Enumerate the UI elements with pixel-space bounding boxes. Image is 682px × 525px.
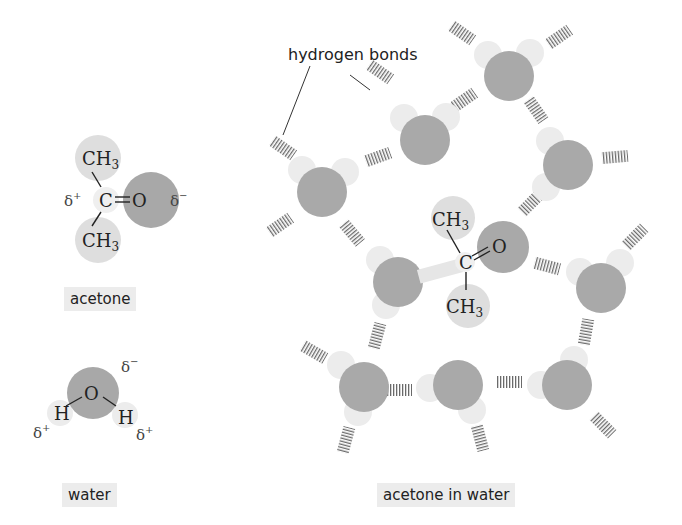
water-molecule: O H H δ− δ+ δ+ <box>33 356 153 444</box>
water-molecule-3 <box>474 39 544 101</box>
water-hydrogen-right-label: H <box>118 407 134 428</box>
acetone-molecule: CH3 CH3 C O δ+ δ− <box>64 135 187 263</box>
network-carbon-label: C <box>459 252 473 273</box>
water-oxygen-label: O <box>84 383 99 404</box>
carbon-label: C <box>99 190 113 211</box>
pointer-line-2 <box>350 75 370 90</box>
water-molecule-1 <box>288 156 359 217</box>
water-molecule-7 <box>327 351 389 426</box>
network-oxygen-label: O <box>492 236 507 257</box>
water-delta-minus: δ− <box>121 356 138 376</box>
water-molecule-6 <box>566 249 634 313</box>
water-molecule-2 <box>390 103 460 165</box>
acetone-in-water-molecule: CH3 CH3 C O <box>417 196 529 328</box>
pointer-line-1 <box>283 66 310 135</box>
water-delta-plus-right: δ+ <box>136 424 153 444</box>
water-molecule-4 <box>532 127 593 201</box>
acetone-water-diagram: CH3 CH3 C O δ+ δ− O H H δ− δ+ δ+ <box>0 0 682 525</box>
water-hydrogen-left-label: H <box>54 403 70 424</box>
water-molecule-8 <box>416 360 486 424</box>
oxygen-label: O <box>132 190 147 211</box>
water-delta-plus-left: δ+ <box>33 422 50 442</box>
water-network: CH3 CH3 C O <box>266 21 649 454</box>
acetone-label: acetone <box>64 287 136 311</box>
water-molecule-5 <box>366 246 423 319</box>
delta-plus-label: δ+ <box>64 190 81 210</box>
water-molecule-9 <box>527 346 592 410</box>
delta-minus-label: δ− <box>170 190 187 210</box>
acetone-in-water-label: acetone in water <box>377 483 515 507</box>
water-label: water <box>62 483 117 507</box>
hydrogen-bonds-label: hydrogen bonds <box>288 45 418 64</box>
